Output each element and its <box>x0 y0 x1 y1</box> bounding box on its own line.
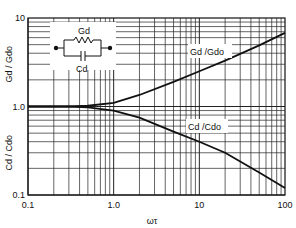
curve-label-g: Gd /Gdo <box>190 47 224 57</box>
y-axis-label-top: Gd / Gdo <box>4 46 14 83</box>
y-tick-label: 1.0 <box>12 102 25 112</box>
x-tick-label: 100 <box>277 200 292 210</box>
x-tick-label: 10 <box>194 200 204 210</box>
x-tick-label: 1.0 <box>107 200 120 210</box>
x-tick-label: 0.1 <box>22 200 35 210</box>
chart: 0.11.0101000.11.010ωτGd / GdoCd / CdoGd … <box>0 0 296 228</box>
y-tick-label: 0.1 <box>12 190 25 200</box>
y-axis-label-bottom: Cd / Cdo <box>4 135 14 171</box>
resistor-label: Gd <box>78 26 90 36</box>
plot-area: 0.11.0101000.11.010ωτGd / GdoCd / CdoGd … <box>0 0 296 228</box>
curve-label-c: Cd /Cdo <box>188 122 221 132</box>
y-tick-label: 10 <box>15 13 25 23</box>
curve-c <box>28 107 285 188</box>
x-axis-label: ωτ <box>147 216 158 226</box>
capacitor-label: Cd <box>76 64 88 74</box>
